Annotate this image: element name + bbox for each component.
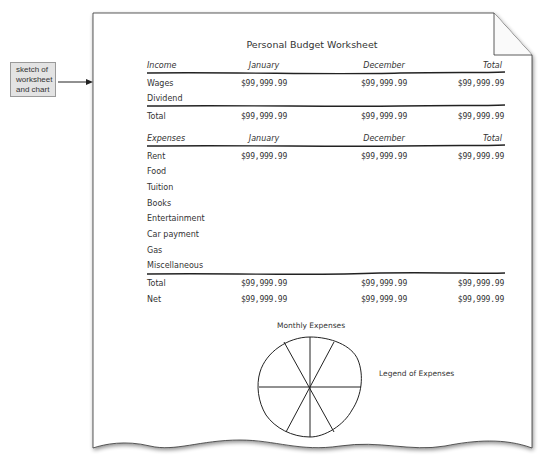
expenses-december-header: December (363, 134, 404, 143)
net-cell: $99,999.99 (361, 295, 407, 304)
net-label: Net (147, 295, 161, 304)
income-cell: $99,999.99 (361, 79, 407, 88)
chart-title: Monthly Expenses (277, 321, 345, 330)
expense-row-label: Miscellaneous (147, 261, 203, 270)
income-total-header: Total (483, 61, 502, 70)
expense-row-label: Rent (147, 152, 165, 161)
expenses-header: Expenses (147, 134, 185, 143)
income-cell: $99,999.99 (241, 79, 287, 88)
income-header: Income (147, 61, 176, 70)
income-december-header: December (363, 61, 404, 70)
income-row-label: Dividend (147, 94, 183, 103)
expenses-total-cell: $99,999.99 (241, 279, 287, 288)
expense-cell: $99,999.99 (458, 152, 504, 161)
income-january-header: January (249, 61, 279, 70)
expense-row-label: Food (147, 167, 166, 176)
income-total-cell: $99,999.99 (361, 112, 407, 121)
expenses-january-header: January (249, 134, 279, 143)
net-cell: $99,999.99 (241, 295, 287, 304)
expense-row-label: Entertainment (147, 214, 205, 223)
expense-row-label: Tuition (147, 183, 173, 192)
expense-cell: $99,999.99 (361, 152, 407, 161)
expense-row-label: Gas (147, 246, 162, 255)
income-total-cell: $99,999.99 (241, 112, 287, 121)
expenses-total-header: Total (483, 134, 502, 143)
expense-cell: $99,999.99 (241, 152, 287, 161)
expenses-total-cell: $99,999.99 (458, 279, 504, 288)
income-total-label: Total (147, 112, 166, 121)
expense-row-label: Car payment (147, 230, 199, 239)
expenses-total-cell: $99,999.99 (361, 279, 407, 288)
income-total-cell: $99,999.99 (458, 112, 504, 121)
income-row-label: Wages (147, 79, 173, 88)
worksheet-title: Personal Budget Worksheet (246, 39, 377, 50)
expenses-total-label: Total (147, 279, 166, 288)
net-cell: $99,999.99 (458, 295, 504, 304)
chart-legend: Legend of Expenses (379, 369, 454, 378)
income-cell: $99,999.99 (458, 79, 504, 88)
expense-row-label: Books (147, 199, 171, 208)
